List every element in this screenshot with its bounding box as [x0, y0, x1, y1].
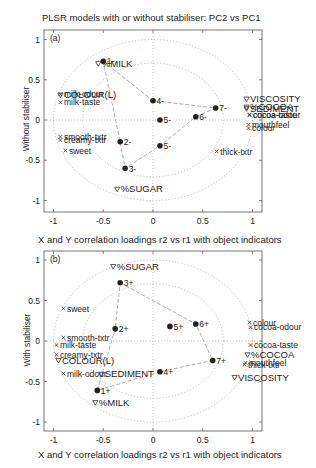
point-label: cocoa-odour: [254, 322, 301, 332]
filled-circle-marker-icon: [157, 369, 163, 375]
x-marker-icon: [243, 363, 247, 367]
y-tick-label: 0: [35, 336, 40, 346]
point-label: colour: [252, 123, 275, 133]
point-label: %SUGAR: [117, 261, 159, 272]
point-label: 4-: [157, 96, 165, 106]
x-tick-label: 0: [151, 435, 156, 445]
point-label: 7+: [216, 356, 226, 366]
filled-circle-marker-icon: [100, 58, 106, 64]
data-point: 1+: [94, 386, 110, 396]
point-label: sweet: [67, 304, 90, 314]
point-label: 1-: [107, 56, 115, 66]
point-label: 4+: [163, 367, 173, 377]
filled-circle-marker-icon: [213, 105, 219, 111]
data-point: 5+: [167, 322, 183, 332]
point-label: 3-: [129, 164, 137, 174]
data-point: cocoa-odour: [248, 110, 301, 120]
x-marker-icon: [59, 138, 63, 142]
data-point: 6+: [193, 319, 209, 329]
point-label: 7-: [219, 103, 227, 113]
y-tick-label: -1: [32, 196, 40, 206]
x-tick-label: 0.5: [197, 435, 209, 445]
point-label: milk-odour: [67, 369, 107, 379]
point-label: thick-txtr: [248, 360, 280, 370]
x-tick-label: -1: [50, 216, 58, 226]
point-label: cocoa-taste: [254, 340, 298, 350]
y-tick-label: 0.5: [28, 296, 40, 306]
point-label: VISCOSITY: [238, 372, 289, 383]
data-point: milk-odour: [62, 369, 107, 379]
point-label: 5-: [163, 115, 171, 125]
data-point: thick-txtr: [215, 147, 253, 157]
data-point: %SUGAR: [111, 261, 159, 272]
y-tick-label: 1: [35, 255, 40, 265]
data-point: milk-taste: [59, 97, 101, 107]
x-marker-icon: [247, 123, 251, 127]
point-label: 6-: [199, 112, 207, 122]
filled-circle-marker-icon: [210, 358, 216, 364]
triangle-down-marker-icon: [115, 187, 120, 192]
panel-label: (a): [50, 33, 61, 43]
point-label: 2+: [119, 324, 129, 334]
triangle-down-marker-icon: [96, 62, 101, 67]
x-marker-icon: [249, 325, 253, 329]
data-point: 5-: [157, 115, 171, 125]
point-label: thick-txtr: [220, 147, 252, 157]
data-point: milk-taste: [55, 340, 97, 350]
x-marker-icon: [64, 149, 68, 153]
x-tick-label: 1: [250, 216, 255, 226]
data-point: 5-: [157, 141, 171, 151]
plot-panel-b: -11-0.50.5000.5-0.51-1(b)%SUGAR%COCOACOL…: [25, 251, 301, 445]
data-point: sweet: [62, 304, 90, 314]
triangle-down-marker-icon: [232, 375, 237, 380]
point-label: 1+: [101, 386, 111, 396]
x-tick-label: -1: [50, 435, 58, 445]
filled-circle-marker-icon: [94, 388, 100, 394]
data-point: thick-txtr: [243, 360, 281, 370]
data-point: 7+: [210, 356, 226, 366]
point-label: SEDIMENT: [105, 368, 154, 379]
x-marker-icon: [215, 150, 219, 154]
y-tick-label: 1: [35, 35, 40, 45]
triangle-down-marker-icon: [244, 97, 249, 102]
data-point: 4-: [150, 96, 164, 106]
x-tick-label: -0.5: [96, 216, 111, 226]
x-tick-label: -0.5: [96, 435, 111, 445]
point-label: 6+: [199, 319, 209, 329]
filled-circle-marker-icon: [157, 117, 163, 123]
y-tick-label: -0.5: [25, 377, 40, 387]
data-point: creamy-txtr: [59, 135, 107, 145]
filled-circle-marker-icon: [150, 98, 156, 104]
x-tick-label: 0.5: [197, 216, 209, 226]
filled-circle-marker-icon: [193, 114, 199, 120]
data-point: creamy-txtr: [55, 350, 103, 360]
x-marker-icon: [62, 336, 66, 340]
point-label: cocoa-odour: [253, 110, 300, 120]
y-tick-label: -0.5: [25, 155, 40, 165]
data-point: 2+: [112, 324, 128, 334]
y-tick-label: -1: [32, 417, 40, 427]
filled-circle-marker-icon: [122, 166, 128, 172]
point-label: 3+: [124, 278, 134, 288]
point-label: 5-: [163, 141, 171, 151]
filled-circle-marker-icon: [167, 324, 173, 330]
data-point: VISCOSITY: [232, 372, 289, 383]
data-point: %MILK: [93, 397, 130, 408]
filled-circle-marker-icon: [193, 321, 199, 327]
x-marker-icon: [59, 135, 63, 139]
point-label: 5+: [173, 322, 183, 332]
plot-panel-a: -11-0.50.5000.5-0.51-1(a)%MILKCOLOUR(L)V…: [25, 30, 301, 226]
point-label: 2-: [124, 137, 132, 147]
filled-circle-marker-icon: [157, 143, 163, 149]
chart-canvas: -11-0.50.5000.5-0.51-1(a)%MILKCOLOUR(L)V…: [0, 0, 316, 468]
data-point: 3+: [117, 278, 133, 288]
data-point: 4+: [157, 367, 173, 377]
data-point: cocoa-odour: [249, 322, 302, 332]
x-tick-label: 1: [250, 435, 255, 445]
point-label: creamy-txtr: [64, 135, 107, 145]
data-point: 7-: [213, 103, 227, 113]
x-marker-icon: [55, 343, 59, 347]
x-marker-icon: [249, 343, 253, 347]
y-tick-label: 0: [35, 115, 40, 125]
triangle-down-marker-icon: [93, 401, 98, 406]
